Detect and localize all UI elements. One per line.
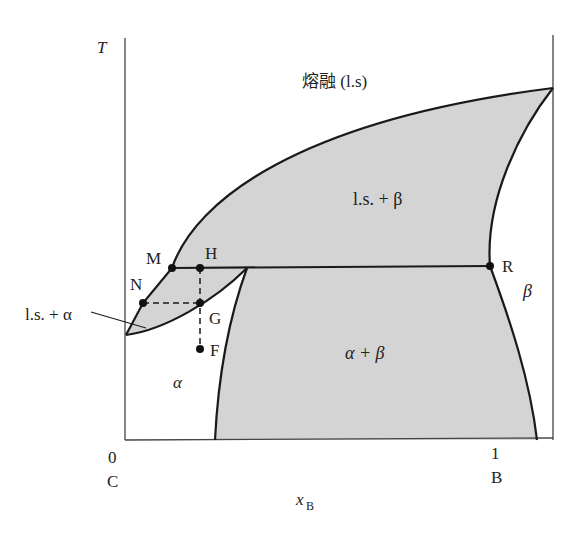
- point-M: [168, 264, 176, 272]
- label-H: H: [205, 244, 217, 263]
- region-label-alpha: α: [173, 373, 183, 392]
- x-component-B: B: [491, 468, 502, 487]
- x-axis-label: x: [295, 490, 304, 509]
- point-N: [139, 299, 147, 307]
- label-N: N: [130, 275, 142, 294]
- point-R: [486, 262, 494, 270]
- region-label-beta: β: [522, 281, 532, 301]
- label-G: G: [209, 309, 221, 328]
- label-R: R: [502, 257, 514, 276]
- phase-diagram: M H N G F R 熔融 (l.s) l.s. + β l.s. + α α…: [0, 0, 585, 537]
- x-component-C: C: [107, 472, 118, 491]
- region-label-melt: 熔融 (l.s): [302, 72, 367, 91]
- point-H: [196, 264, 204, 272]
- point-F: [196, 345, 204, 353]
- x-tick-0: 0: [108, 448, 117, 467]
- x-axis-label-subscript: B: [306, 499, 314, 513]
- label-F: F: [210, 341, 219, 360]
- point-G: [196, 299, 204, 307]
- y-axis-label: T: [97, 38, 108, 57]
- region-label-ls-alpha: l.s. + α: [25, 305, 72, 324]
- region-label-alpha-beta: α + β: [345, 343, 385, 363]
- region-label-ls-beta: l.s. + β: [353, 189, 402, 209]
- label-M: M: [146, 249, 161, 268]
- x-tick-1: 1: [491, 444, 500, 463]
- region-ls-beta: [172, 88, 553, 268]
